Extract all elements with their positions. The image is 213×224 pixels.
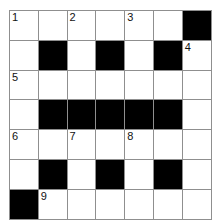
crossword-clue-number: 4 <box>185 41 191 53</box>
crossword-open-cell[interactable] <box>10 41 38 70</box>
crossword-block-cell <box>96 100 124 129</box>
crossword-open-cell[interactable]: 4 <box>183 41 211 70</box>
crossword-open-cell[interactable]: 9 <box>39 190 67 219</box>
crossword-block-cell <box>39 160 67 189</box>
crossword-open-cell[interactable]: 8 <box>125 130 153 159</box>
crossword-block-cell <box>154 160 182 189</box>
crossword-open-cell[interactable] <box>183 130 211 159</box>
crossword-open-cell[interactable] <box>68 190 96 219</box>
crossword-block-cell <box>96 41 124 70</box>
crossword-open-cell[interactable] <box>68 71 96 100</box>
crossword-open-cell[interactable] <box>39 130 67 159</box>
crossword-clue-number: 9 <box>41 190 47 202</box>
crossword-clue-number: 6 <box>12 130 18 142</box>
crossword-open-cell[interactable] <box>183 160 211 189</box>
crossword-open-cell[interactable] <box>39 71 67 100</box>
crossword-open-cell[interactable] <box>96 130 124 159</box>
crossword-open-cell[interactable] <box>125 160 153 189</box>
crossword-open-cell[interactable] <box>10 100 38 129</box>
crossword-open-cell[interactable] <box>96 71 124 100</box>
crossword-block-cell <box>39 100 67 129</box>
crossword-block-cell <box>154 41 182 70</box>
crossword-open-cell[interactable] <box>125 190 153 219</box>
crossword-block-cell <box>183 11 211 40</box>
crossword-open-cell[interactable] <box>125 41 153 70</box>
crossword-open-cell[interactable]: 7 <box>68 130 96 159</box>
crossword-puzzle: 123456789 <box>0 0 213 224</box>
crossword-open-cell[interactable] <box>154 71 182 100</box>
crossword-clue-number: 8 <box>127 130 133 142</box>
crossword-open-cell[interactable]: 6 <box>10 130 38 159</box>
crossword-open-cell[interactable] <box>96 190 124 219</box>
crossword-grid[interactable]: 123456789 <box>9 10 212 220</box>
crossword-open-cell[interactable] <box>154 190 182 219</box>
crossword-block-cell <box>96 160 124 189</box>
crossword-open-cell[interactable]: 5 <box>10 71 38 100</box>
crossword-open-cell[interactable]: 3 <box>125 11 153 40</box>
crossword-clue-number: 1 <box>12 11 18 23</box>
crossword-block-cell <box>10 190 38 219</box>
crossword-clue-number: 2 <box>70 11 76 23</box>
crossword-open-cell[interactable] <box>183 100 211 129</box>
crossword-open-cell[interactable]: 2 <box>68 11 96 40</box>
crossword-clue-number: 3 <box>127 11 133 23</box>
crossword-open-cell[interactable] <box>154 130 182 159</box>
crossword-block-cell <box>39 41 67 70</box>
crossword-clue-number: 7 <box>70 130 76 142</box>
crossword-open-cell[interactable] <box>68 160 96 189</box>
crossword-open-cell[interactable] <box>68 41 96 70</box>
crossword-block-cell <box>68 100 96 129</box>
crossword-clue-number: 5 <box>12 71 18 83</box>
crossword-open-cell[interactable] <box>183 71 211 100</box>
crossword-open-cell[interactable] <box>183 190 211 219</box>
crossword-open-cell[interactable] <box>96 11 124 40</box>
crossword-open-cell[interactable] <box>125 71 153 100</box>
crossword-open-cell[interactable]: 1 <box>10 11 38 40</box>
crossword-block-cell <box>154 100 182 129</box>
crossword-open-cell[interactable] <box>39 11 67 40</box>
crossword-open-cell[interactable] <box>10 160 38 189</box>
crossword-block-cell <box>125 100 153 129</box>
crossword-open-cell[interactable] <box>154 11 182 40</box>
